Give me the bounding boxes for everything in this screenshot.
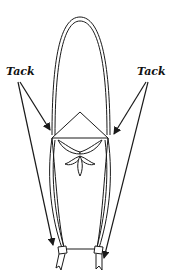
right-tail xyxy=(96,254,102,270)
tack-label-right: Tack xyxy=(137,66,166,77)
outer-loop xyxy=(52,17,110,135)
left-knot xyxy=(58,246,67,254)
tack-label-left: Tack xyxy=(6,66,35,77)
trefoil-ornament xyxy=(58,140,102,176)
right-strands xyxy=(97,138,110,248)
left-strands xyxy=(50,138,64,248)
diamond-fold xyxy=(52,112,108,138)
left-tack-arrow-upper xyxy=(20,82,50,130)
tack-diagram xyxy=(0,0,171,277)
right-knot xyxy=(94,246,103,254)
left-tail xyxy=(56,254,65,270)
tack-arrows xyxy=(18,82,148,258)
